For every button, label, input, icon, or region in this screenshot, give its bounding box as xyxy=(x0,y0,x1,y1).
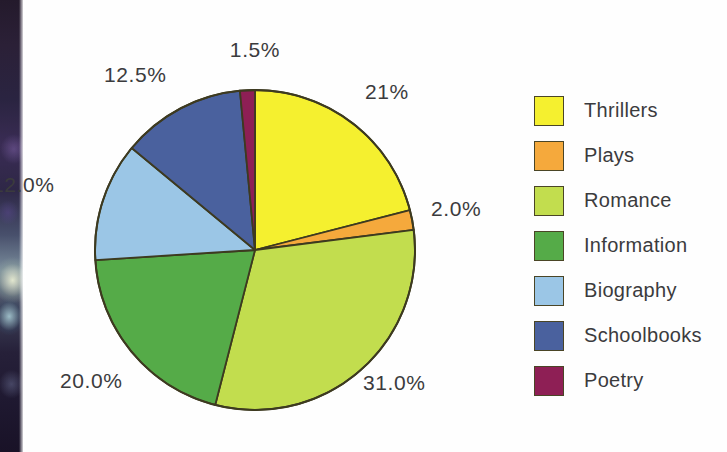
legend-swatch-biography xyxy=(534,276,564,306)
legend-swatch-poetry xyxy=(534,366,564,396)
legend-label: Plays xyxy=(584,144,634,167)
legend-swatch-thrillers xyxy=(534,96,564,126)
slice-label-poetry: 1.5% xyxy=(230,38,280,62)
chart-page: 1.5% 12.5% 12.0% 20.0% 31.0% 2.0% 21% Th… xyxy=(0,0,727,452)
legend-swatch-plays xyxy=(534,141,564,171)
legend-item-thrillers[interactable]: Thrillers xyxy=(534,88,724,133)
legend-item-information[interactable]: Information xyxy=(534,223,724,268)
slice-label-thrillers: 21% xyxy=(365,80,409,104)
legend-label: Biography xyxy=(584,279,677,302)
legend-swatch-romance xyxy=(534,186,564,216)
legend-label: Information xyxy=(584,234,687,257)
slice-label-schoolbooks: 12.5% xyxy=(104,63,167,87)
legend-item-biography[interactable]: Biography xyxy=(534,268,724,313)
legend-label: Poetry xyxy=(584,369,644,392)
legend-item-poetry[interactable]: Poetry xyxy=(534,358,724,403)
pie-slice-group xyxy=(95,90,415,410)
legend-swatch-information xyxy=(534,231,564,261)
legend-label: Schoolbooks xyxy=(584,324,702,347)
slice-label-plays: 2.0% xyxy=(431,197,481,221)
legend-label: Thrillers xyxy=(584,99,658,122)
pie-chart: 1.5% 12.5% 12.0% 20.0% 31.0% 2.0% 21% xyxy=(0,0,470,452)
slice-label-romance: 31.0% xyxy=(363,371,426,395)
legend-item-plays[interactable]: Plays xyxy=(534,133,724,178)
legend-item-romance[interactable]: Romance xyxy=(534,178,724,223)
slice-label-information: 20.0% xyxy=(60,369,123,393)
slice-label-biography: 12.0% xyxy=(0,173,55,197)
legend: ThrillersPlaysRomanceInformationBiograph… xyxy=(534,88,724,403)
legend-label: Romance xyxy=(584,189,672,212)
legend-item-schoolbooks[interactable]: Schoolbooks xyxy=(534,313,724,358)
legend-swatch-schoolbooks xyxy=(534,321,564,351)
